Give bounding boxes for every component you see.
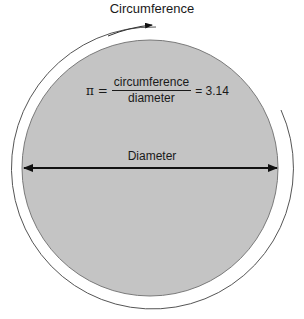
formula-rhs: = 3.14 <box>195 84 229 98</box>
formula-lhs: π = <box>86 84 108 98</box>
pi-formula: π = circumference diameter = 3.14 <box>86 76 229 105</box>
circle-diagram: Circumference π = circumference diameter… <box>0 0 304 319</box>
formula-denominator: diameter <box>128 91 175 105</box>
formula-numerator: circumference <box>112 76 191 91</box>
formula-fraction: circumference diameter <box>112 76 191 105</box>
circumference-label: Circumference <box>0 1 304 16</box>
diameter-label: Diameter <box>0 149 304 163</box>
